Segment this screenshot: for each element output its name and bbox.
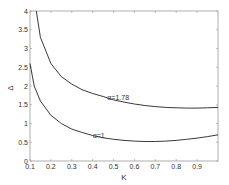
- y-tick-label: 3: [24, 45, 28, 52]
- curve-annotation: α=1: [93, 132, 105, 139]
- x-tick-label: 0.4: [88, 163, 98, 170]
- x-axis-label: K: [121, 173, 127, 182]
- x-tick-label: 0.3: [67, 163, 77, 170]
- x-tick-label: 0.7: [150, 163, 160, 170]
- line-chart: 00.511.522.533.54 0.10.20.30.40.50.60.70…: [0, 0, 229, 185]
- curve-annotation: α=1.78: [107, 94, 129, 101]
- x-tick-label: 0.5: [109, 163, 119, 170]
- y-tick-label: 1.5: [18, 101, 28, 108]
- y-tick-label: 4: [24, 8, 28, 15]
- y-tick-label: 0.5: [18, 139, 28, 146]
- x-tick-label: 0.8: [171, 163, 181, 170]
- x-tick-label: 0.9: [192, 163, 202, 170]
- y-tick-label: 2.5: [18, 64, 28, 71]
- x-tick-label: 0.6: [130, 163, 140, 170]
- y-tick-label: 1: [24, 120, 28, 127]
- y-axis-label: Δ: [6, 85, 15, 91]
- y-tick-label: 3.5: [18, 26, 28, 33]
- x-tick-label: 0.2: [46, 163, 56, 170]
- x-tick-label: 0.1: [25, 163, 35, 170]
- y-tick-label: 2: [24, 83, 28, 90]
